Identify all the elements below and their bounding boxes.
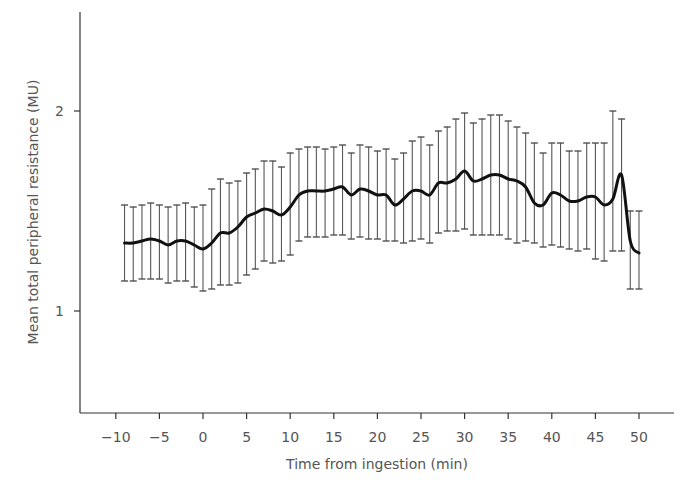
error-bar [252,169,259,269]
error-bar [609,111,616,251]
x-tick-label: −10 [101,429,131,445]
error-bar [513,127,520,243]
y-axis-title: Mean total peripheral resistance (MU) [25,80,41,345]
error-bar [147,203,154,279]
error-bar [322,149,329,237]
x-tick-label: 40 [543,429,561,445]
x-tick-label: 45 [586,429,604,445]
y-ticks: 12 [55,103,80,319]
x-axis-title: Time from ingestion (min) [285,456,468,472]
tpr-chart: 12 −10−505101520253035404550 Mean total … [0,0,685,491]
y-tick-label: 2 [55,103,64,119]
error-bar [243,173,250,275]
error-bar [444,127,451,231]
x-tick-label: 50 [630,429,648,445]
y-axis: 12 [55,12,80,413]
y-tick-label: 1 [55,303,64,319]
x-tick-label: 25 [412,429,430,445]
error-bar [391,159,398,241]
error-bar [531,143,538,243]
figure-caption [0,482,685,491]
x-tick-label: −5 [149,429,170,445]
x-tick-label: 20 [368,429,386,445]
mean-line [125,171,639,253]
error-bars [121,111,642,291]
x-tick-label: 0 [199,429,208,445]
x-ticks: −10−505101520253035404550 [101,413,648,445]
x-tick-label: 5 [242,429,251,445]
x-tick-label: 35 [499,429,517,445]
error-bar [636,211,643,289]
x-axis: −10−505101520253035404550 [80,413,674,445]
error-bar [418,137,425,239]
x-tick-label: 30 [456,429,474,445]
x-tick-label: 15 [325,429,343,445]
x-tick-label: 10 [281,429,299,445]
error-bar [234,181,241,283]
